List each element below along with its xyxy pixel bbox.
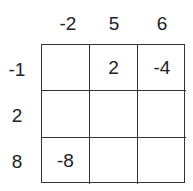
- grid-cell: [42, 91, 90, 138]
- number-grid: 2 -4 -8: [41, 44, 185, 183]
- row-header-2: 2: [2, 106, 32, 126]
- grid-cell: [90, 138, 138, 184]
- grid-cell: -4: [138, 45, 186, 91]
- row-header-3: 8: [2, 152, 32, 172]
- grid-cell: [138, 138, 186, 184]
- grid-cell: [42, 45, 90, 91]
- grid-cell: [90, 91, 138, 138]
- grid-cell: 2: [90, 45, 138, 91]
- grid-cell: [138, 91, 186, 138]
- column-header-1: -2: [44, 14, 92, 34]
- grid-cell: -8: [42, 138, 90, 184]
- column-header-3: 6: [138, 14, 186, 34]
- column-header-2: 5: [90, 14, 138, 34]
- row-header-1: -1: [2, 60, 32, 80]
